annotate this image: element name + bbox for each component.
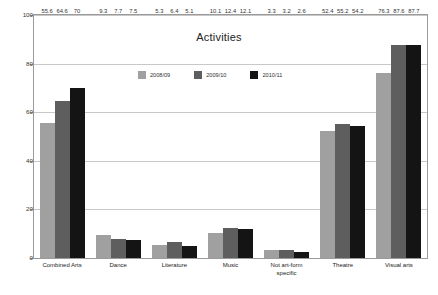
bar[interactable]: 7.7 — [111, 239, 126, 258]
bar-value-label: 5.1 — [185, 8, 193, 14]
bar-column: 6.4 — [167, 15, 182, 258]
bar-column: 64.6 — [55, 15, 70, 258]
bar[interactable]: 5.1 — [182, 246, 197, 258]
bar-value-label: 2.6 — [298, 8, 306, 14]
y-tick-mark — [30, 64, 33, 65]
bar-column: 70 — [70, 15, 85, 258]
bar[interactable]: 10.1 — [208, 233, 223, 258]
bar-column: 87.7 — [406, 15, 421, 258]
bar-group: 3.33.22.6 — [264, 15, 309, 258]
category-label: Not art-form specific — [261, 262, 313, 277]
bar-column: 54.2 — [350, 15, 365, 258]
bar-group: 55.664.670 — [40, 15, 85, 258]
y-tick-mark — [30, 209, 33, 210]
category-label: Visual arts — [373, 262, 425, 270]
bar[interactable]: 12.4 — [223, 228, 238, 258]
bar-group: 76.387.687.7 — [376, 15, 421, 258]
bar-column: 7.5 — [126, 15, 141, 258]
bar[interactable]: 55.2 — [335, 124, 350, 258]
x-axis-category-labels: Combined ArtsDanceLiteratureMusicNot art… — [34, 262, 427, 277]
category-label: Theatre — [317, 262, 369, 270]
bar-column: 87.6 — [391, 15, 406, 258]
bar-column: 2.6 — [294, 15, 309, 258]
category-label: Dance — [92, 262, 144, 270]
bar-value-label: 76.3 — [378, 8, 389, 14]
bar-value-label: 87.7 — [408, 8, 419, 14]
bar[interactable]: 2.6 — [294, 252, 309, 258]
bar[interactable]: 3.2 — [279, 250, 294, 258]
category-label: Music — [204, 262, 256, 270]
bar[interactable]: 87.7 — [406, 45, 421, 258]
bar-value-label: 5.3 — [155, 8, 163, 14]
bar[interactable]: 55.6 — [40, 123, 55, 258]
bar-column: 10.1 — [208, 15, 223, 258]
bar-group: 52.455.254.2 — [320, 15, 365, 258]
bar-value-label: 7.7 — [114, 8, 122, 14]
bar-column: 12.4 — [223, 15, 238, 258]
y-axis: 020406080100 — [0, 14, 33, 259]
bar-value-label: 3.2 — [283, 8, 291, 14]
bar-column: 55.6 — [40, 15, 55, 258]
bar[interactable]: 7.5 — [126, 240, 141, 258]
y-tick-mark — [30, 258, 33, 259]
bar-column: 7.7 — [111, 15, 126, 258]
bar-group: 9.37.77.5 — [96, 15, 141, 258]
bar-value-label: 54.2 — [352, 8, 363, 14]
y-tick-mark — [30, 161, 33, 162]
y-tick-mark — [30, 112, 33, 113]
bar-value-label: 52.4 — [322, 8, 333, 14]
bar-column: 52.4 — [320, 15, 335, 258]
bar-value-label: 10.1 — [210, 8, 221, 14]
bar-value-label: 55.6 — [41, 8, 52, 14]
bar-groups: 55.664.6709.37.77.55.36.45.110.112.412.1… — [34, 15, 427, 258]
bar-column: 55.2 — [335, 15, 350, 258]
bar[interactable]: 5.3 — [152, 245, 167, 258]
bar-column: 3.3 — [264, 15, 279, 258]
bar-column: 12.1 — [238, 15, 253, 258]
bar-column: 3.2 — [279, 15, 294, 258]
bar-column: 5.3 — [152, 15, 167, 258]
bar-value-label: 87.6 — [393, 8, 404, 14]
bar[interactable]: 70 — [70, 88, 85, 258]
bar-value-label: 6.4 — [170, 8, 178, 14]
bar-value-label: 7.5 — [129, 8, 137, 14]
bar[interactable]: 9.3 — [96, 235, 111, 258]
bar[interactable]: 52.4 — [320, 131, 335, 258]
bar-column: 76.3 — [376, 15, 391, 258]
bar[interactable]: 76.3 — [376, 73, 391, 258]
bar-chart: 020406080100 Activities 2008/092009/1020… — [0, 0, 438, 295]
bar-value-label: 70 — [74, 8, 80, 14]
bar-column: 5.1 — [182, 15, 197, 258]
y-tick-mark — [30, 15, 33, 16]
bar-value-label: 12.1 — [240, 8, 251, 14]
bar[interactable]: 3.3 — [264, 250, 279, 258]
bar-value-label: 64.6 — [56, 8, 67, 14]
bar-value-label: 3.3 — [268, 8, 276, 14]
bar-group: 10.112.412.1 — [208, 15, 253, 258]
bar-value-label: 12.4 — [225, 8, 236, 14]
bar-value-label: 55.2 — [337, 8, 348, 14]
bar[interactable]: 87.6 — [391, 45, 406, 258]
bar[interactable]: 12.1 — [238, 229, 253, 258]
bar[interactable]: 6.4 — [167, 242, 182, 258]
bar[interactable]: 64.6 — [55, 101, 70, 258]
bar-group: 5.36.45.1 — [152, 15, 197, 258]
bar[interactable]: 54.2 — [350, 126, 365, 258]
bar-column: 9.3 — [96, 15, 111, 258]
bar-value-label: 9.3 — [99, 8, 107, 14]
category-label: Literature — [148, 262, 200, 270]
category-label: Combined Arts — [36, 262, 88, 270]
